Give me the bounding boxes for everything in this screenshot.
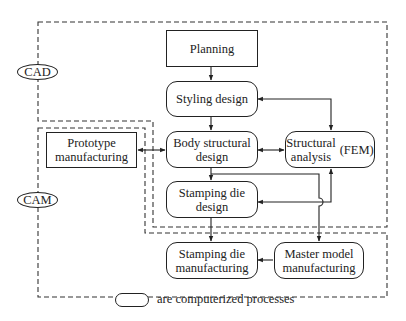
- node-stamping-die-design: Stamping die design: [166, 181, 258, 218]
- node-styling-design-label: Styling design: [176, 92, 248, 106]
- node-prototype-manufacturing-line2: manufacturing: [55, 150, 128, 164]
- node-planning-label: Planning: [190, 42, 234, 56]
- node-master-model-manufacturing-line1: Master model: [284, 247, 353, 261]
- node-master-model-manufacturing-line2: manufacturing: [283, 261, 356, 275]
- node-structural-analysis-line1: Structural: [286, 136, 335, 150]
- node-stamping-die-design-line1: Stamping die: [179, 186, 245, 200]
- node-master-model-manufacturing: Master model manufacturing: [274, 242, 364, 279]
- legend-text: are computerized processes: [157, 292, 294, 307]
- node-prototype-manufacturing: Prototype manufacturing: [46, 132, 137, 168]
- edge-styling-fem: [258, 99, 331, 130]
- cad-label-text: CAD: [24, 65, 50, 80]
- node-prototype-manufacturing-line1: Prototype: [67, 136, 116, 150]
- node-structural-analysis-line2: analysis: [291, 150, 331, 164]
- cad-label: CAD: [17, 64, 58, 80]
- cam-label-text: CAM: [23, 193, 51, 208]
- node-body-structural-design-line1: Body structural: [173, 136, 250, 150]
- node-stamping-die-manufacturing: Stamping die manufacturing: [166, 242, 258, 279]
- node-stamping-die-manufacturing-line1: Stamping die: [179, 247, 245, 261]
- cam-label: CAM: [17, 192, 58, 208]
- node-body-structural-design: Body structural design: [166, 131, 258, 168]
- node-planning: Planning: [166, 30, 258, 67]
- node-styling-design: Styling design: [166, 81, 258, 117]
- node-stamping-die-design-line2: design: [196, 200, 229, 214]
- node-body-structural-design-line2: design: [196, 150, 229, 164]
- node-structural-analysis-fem: (FEM): [340, 143, 374, 157]
- node-stamping-die-manufacturing-line2: manufacturing: [176, 261, 249, 275]
- legend-symbol: [115, 293, 149, 307]
- node-structural-analysis: Structural analysis (FEM): [285, 131, 375, 168]
